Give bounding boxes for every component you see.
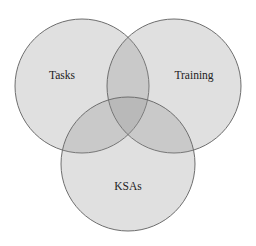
training-label: Training: [174, 69, 213, 82]
tasks-label: Tasks: [49, 69, 76, 81]
venn-diagram: Tasks Training KSAs: [0, 0, 256, 246]
ksas-circle: [61, 97, 195, 231]
ksas-label: KSAs: [114, 180, 142, 192]
